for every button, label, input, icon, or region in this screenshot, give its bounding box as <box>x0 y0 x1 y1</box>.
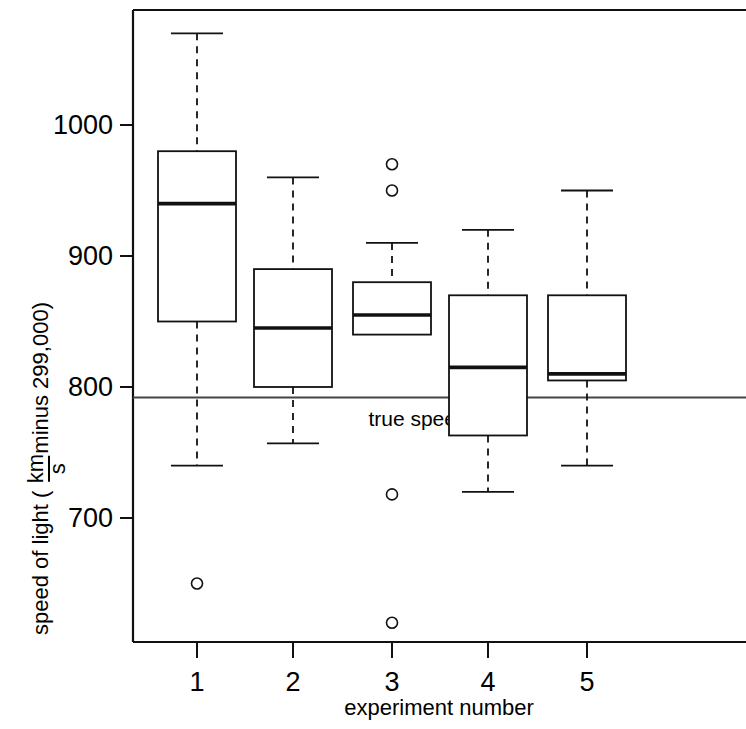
y-axis-title-suffix: minus 299,000) <box>28 302 53 454</box>
y-tick-label: 800 <box>68 372 113 402</box>
x-tick-label: 5 <box>579 667 594 697</box>
x-tick-label: 2 <box>285 667 300 697</box>
outlier-point <box>192 578 203 589</box>
true-speed-reference: true speed <box>133 397 746 430</box>
y-tick-label: 700 <box>68 503 113 533</box>
chart-canvas: 1000900800700 12345 true speed experimen… <box>0 0 746 729</box>
y-tick-label: 900 <box>68 241 113 271</box>
outlier-point <box>387 185 398 196</box>
x-axis-title: experiment number <box>344 695 534 720</box>
box-body <box>158 151 236 321</box>
boxplot-figure: 1000900800700 12345 true speed experimen… <box>0 0 746 729</box>
box-series <box>158 33 626 628</box>
x-tick-label: 1 <box>189 667 204 697</box>
y-axis-title-prefix: speed of light ( <box>28 490 53 635</box>
boxplot-group <box>353 159 431 629</box>
boxplot-group <box>254 177 332 443</box>
y-axis-title: speed of light ( km s minus 299,000) <box>23 302 70 635</box>
x-axis: 12345 <box>189 642 594 697</box>
x-tick-label: 3 <box>384 667 399 697</box>
y-tick-label: 1000 <box>53 110 113 140</box>
boxplot-group <box>449 230 527 492</box>
outlier-point <box>387 617 398 628</box>
x-tick-label: 4 <box>480 667 495 697</box>
box-body <box>449 295 527 435</box>
outlier-point <box>387 489 398 500</box>
boxplot-group <box>548 191 626 466</box>
box-body <box>353 282 431 334</box>
box-body <box>548 295 626 380</box>
outlier-point <box>387 159 398 170</box>
boxplot-group <box>158 33 236 589</box>
plot-frame <box>133 10 746 642</box>
